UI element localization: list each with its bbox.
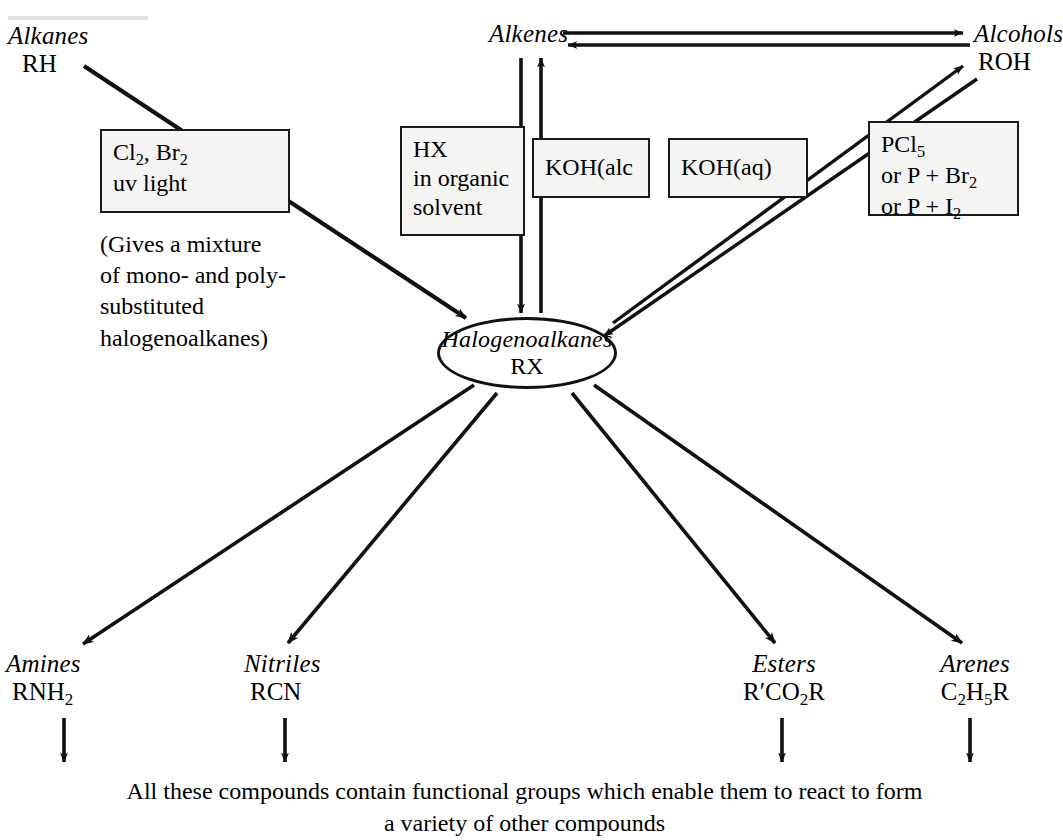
halogenation-note-line4: halogenoalkanes) [100,323,286,354]
node-halogenoalkanes-name: Halogenoalkanes [442,326,613,353]
product-amines-formula: RNH2 [6,678,81,709]
product-nitriles: Nitriles RCN [244,650,321,709]
node-halogenoalkanes-formula: RX [510,353,543,380]
node-alkenes-name: Alkenes [489,20,568,48]
halogenation-note-line3: substituted [100,291,286,322]
node-alkanes-name: Alkanes [8,22,89,50]
reagent-phosphorus-line2: or P + Br2 [881,161,1006,192]
reagent-phosphorus-line3: or P + I2 [881,192,1006,223]
product-esters: Esters R′CO2R [728,650,840,709]
reagent-hx-line1: HX [413,135,512,164]
reagent-hx-line3: solvent [413,193,512,222]
reagent-hx-line2: in organic [413,164,512,193]
reagent-box-hx: HX in organic solvent [400,126,525,236]
product-amines-name: Amines [6,650,81,678]
node-alcohols: Alcohols ROH [974,20,1063,76]
scan-artifact-bar [8,16,148,20]
node-alkanes-formula: RH [8,50,89,78]
diagram-caption-line1: All these compounds contain functional g… [0,775,1049,807]
reagent-box-halogenation: Cl2, Br2 uv light [100,129,290,213]
reagent-koh-alc-text: KOH(alc [545,153,633,182]
product-arenes-name: Arenes [920,650,1030,678]
diagram-caption-line2: a variety of other compounds [0,807,1049,839]
product-esters-formula: R′CO2R [728,678,840,709]
product-arenes-formula: C2H5R [920,678,1030,709]
reagent-box-koh-aq: KOH(aq) [668,138,808,198]
node-alkenes: Alkenes [489,20,568,48]
halogenation-note: (Gives a mixture of mono- and poly- subs… [100,229,286,354]
reagent-box-koh-alc: KOH(alc [532,138,650,198]
reagent-phosphorus-line1: PCl5 [881,130,1006,161]
product-amines: Amines RNH2 [6,650,81,709]
product-arenes: Arenes C2H5R [920,650,1030,709]
node-alcohols-name: Alcohols [974,20,1063,48]
arrow-halogenoalkanes-to-esters [572,393,775,643]
node-alkanes: Alkanes RH [8,22,89,78]
arrow-halogenoalkanes-to-amines [83,385,474,644]
arrow-halogenoalkanes-to-arenes [594,385,962,643]
reagent-koh-aq-text: KOH(aq) [681,153,772,182]
halogenation-note-line1: (Gives a mixture [100,229,286,260]
diagram-caption: All these compounds contain functional g… [0,775,1049,840]
arrow-halogenoalkanes-to-nitriles [288,393,497,643]
product-nitriles-name: Nitriles [244,650,321,678]
reagent-box-phosphorus: PCl5 or P + Br2 or P + I2 [868,121,1019,216]
node-halogenoalkanes: Halogenoalkanes RX [437,317,617,389]
reagent-halogenation-line2: uv light [113,169,277,198]
reagent-halogenation-line1: Cl2, Br2 [113,138,277,169]
halogenation-note-line2: of mono- and poly- [100,260,286,291]
product-nitriles-formula: RCN [244,678,321,709]
product-esters-name: Esters [728,650,840,678]
node-alcohols-formula: ROH [974,48,1063,76]
